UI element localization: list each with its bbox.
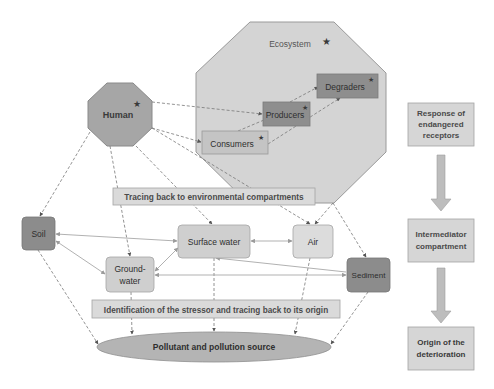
identification-label-box: Identification of the stressor and traci… (92, 300, 340, 318)
human-label: Human (103, 110, 134, 120)
producers-box: Producers ★ (263, 102, 310, 126)
flow-step-origin-line2: deterioration (417, 350, 466, 359)
flow-step-origin-line1: Origin of the (417, 338, 465, 347)
star-icon: ★ (322, 36, 331, 47)
producers-label: Producers (266, 110, 305, 120)
soil-label: Soil (31, 229, 45, 239)
surface-water-box: Surface water (178, 225, 250, 258)
groundwater-label-line1: Ground- (114, 264, 145, 274)
star-icon: ★ (133, 99, 141, 109)
degraders-box: Degraders ★ (317, 74, 378, 98)
human-octagon: Human ★ (88, 83, 152, 146)
consumers-box: Consumers ★ (202, 131, 268, 154)
groundwater-box: Ground- water (106, 257, 154, 292)
pollution-source-ellipse: Pollutant and pollution source (97, 332, 331, 362)
degraders-label: Degraders (325, 82, 365, 92)
tracing-label-box: Tracing back to environmental compartmen… (113, 188, 315, 205)
flow-step-response-line3: receptors (423, 131, 460, 140)
pollution-source-label: Pollutant and pollution source (153, 342, 276, 352)
diagram-canvas: Ecosystem ★ Human ★ (0, 0, 494, 389)
sediment-box: Sediment (347, 258, 390, 292)
ecosystem-label: Ecosystem (269, 39, 311, 49)
star-icon: ★ (302, 104, 308, 111)
star-icon: ★ (368, 76, 374, 83)
tracing-label: Tracing back to environmental compartmen… (124, 192, 304, 202)
flow-step-response-line1: Response of (417, 109, 465, 118)
flow-step-response-line2: endangered (418, 120, 463, 129)
down-arrow-icon (431, 155, 451, 211)
flow-step-intermediator-line1: Intermediator (415, 230, 466, 239)
sediment-label: Sediment (352, 271, 387, 280)
flow-step-intermediator-line2: compartment (416, 242, 467, 251)
flow-step-response: Response of endangered receptors (408, 103, 474, 146)
consumers-label: Consumers (210, 139, 253, 149)
soil-box: Soil (22, 217, 55, 250)
air-box: Air (293, 225, 333, 258)
star-icon: ★ (258, 134, 264, 141)
surface-water-label: Surface water (188, 237, 241, 247)
down-arrow-icon (431, 268, 451, 323)
flow-step-origin: Origin of the deterioration (408, 327, 474, 370)
flow-step-intermediator: Intermediator compartment (408, 219, 474, 262)
groundwater-label-line2: water (119, 276, 141, 286)
air-label: Air (308, 237, 319, 247)
identification-label: Identification of the stressor and traci… (104, 306, 328, 315)
